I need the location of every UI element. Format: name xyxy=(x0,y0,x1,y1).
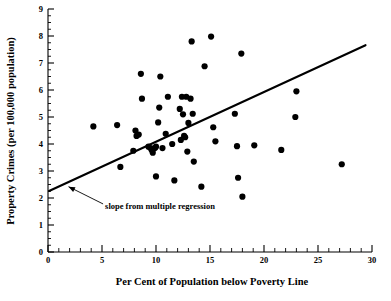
data-point xyxy=(171,177,177,183)
data-point xyxy=(208,33,214,39)
plot-canvas: 0123456789 051015202530 Property Crimes … xyxy=(0,0,391,301)
x-axis-title: Per Cent of Population below Poverty Lin… xyxy=(116,276,309,287)
data-point xyxy=(159,145,165,151)
data-point xyxy=(136,131,142,137)
y-tick-label: 2 xyxy=(39,193,43,203)
data-point xyxy=(153,173,159,179)
data-point xyxy=(278,147,284,153)
data-point xyxy=(165,94,171,100)
data-point xyxy=(155,119,161,125)
data-point xyxy=(339,161,345,167)
annotation-arrow-head xyxy=(69,187,76,192)
data-point xyxy=(251,142,257,148)
data-point xyxy=(153,144,159,150)
y-tick-label: 9 xyxy=(39,4,43,14)
data-point xyxy=(90,123,96,129)
data-point xyxy=(180,111,186,117)
y-tick-label: 8 xyxy=(39,31,43,41)
x-tick-label: 30 xyxy=(368,255,377,265)
y-tick-label: 3 xyxy=(39,166,43,176)
y-axis-tick-labels: 0123456789 xyxy=(39,4,44,257)
data-point xyxy=(114,122,120,128)
data-point xyxy=(238,50,244,56)
data-point xyxy=(202,63,208,69)
data-point xyxy=(138,71,144,77)
scatter-plot-figure: 0123456789 051015202530 Property Crimes … xyxy=(0,0,391,301)
y-tick-label: 0 xyxy=(39,247,43,257)
regression-annotation: slope from multiple regression xyxy=(69,187,216,211)
y-tick-label: 4 xyxy=(39,139,44,149)
data-point xyxy=(234,143,240,149)
x-axis-tick-labels: 051015202530 xyxy=(46,255,376,265)
data-point xyxy=(292,114,298,120)
data-point xyxy=(139,96,145,102)
data-point xyxy=(232,111,238,117)
data-point xyxy=(239,194,245,200)
data-point xyxy=(157,73,163,79)
y-axis xyxy=(48,9,54,252)
y-axis-title: Property Crimes (per 100,000 population) xyxy=(5,37,17,225)
y-tick-label: 1 xyxy=(39,220,43,230)
data-point xyxy=(235,175,241,181)
data-point xyxy=(187,96,193,102)
data-point xyxy=(182,134,188,140)
y-tick-label: 6 xyxy=(39,85,43,95)
data-point xyxy=(191,158,197,164)
x-tick-label: 15 xyxy=(206,255,215,265)
x-tick-label: 25 xyxy=(314,255,323,265)
x-tick-label: 20 xyxy=(260,255,269,265)
data-point xyxy=(156,104,162,110)
data-point xyxy=(190,111,196,117)
data-point xyxy=(198,184,204,190)
data-point xyxy=(169,141,175,147)
x-tick-label: 0 xyxy=(46,255,50,265)
x-axis xyxy=(48,245,372,252)
data-point xyxy=(177,106,183,112)
data-point xyxy=(212,138,218,144)
x-tick-label: 5 xyxy=(100,255,104,265)
data-point xyxy=(189,38,195,44)
data-points xyxy=(90,33,345,199)
x-tick-label: 10 xyxy=(152,255,161,265)
data-point xyxy=(210,124,216,130)
data-point xyxy=(293,88,299,94)
data-point xyxy=(184,148,190,154)
data-point xyxy=(117,164,123,170)
y-tick-label: 7 xyxy=(39,58,44,68)
annotation-label: slope from multiple regression xyxy=(105,201,215,211)
y-tick-label: 5 xyxy=(39,112,43,122)
